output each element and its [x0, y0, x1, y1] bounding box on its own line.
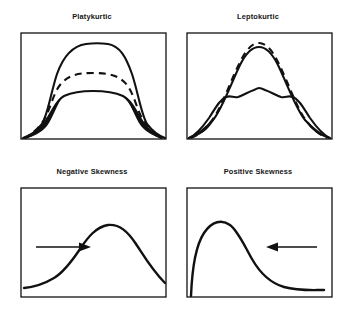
- panel-title-platykurtic: Platykurtic: [6, 12, 178, 22]
- plot-svg-negative-skew: [20, 187, 167, 298]
- plot-frame: [187, 188, 332, 297]
- plot-area-platykurtic: [20, 32, 167, 140]
- panel-title-negative-skew: Negative Skewness: [6, 167, 178, 177]
- plot-svg-positive-skew: [186, 187, 333, 298]
- plot-svg-platykurtic: [20, 32, 167, 140]
- plot-area-leptokurtic: [186, 32, 333, 140]
- panel-positive-skew: Positive Skewness: [172, 167, 344, 307]
- plot-frame: [21, 188, 166, 297]
- panel-leptokurtic: Leptokurtic: [172, 12, 344, 146]
- panel-negative-skew: Negative Skewness: [6, 167, 178, 307]
- plot-area-positive-skew: [186, 187, 333, 298]
- plot-area-negative-skew: [20, 187, 167, 298]
- panel-title-positive-skew: Positive Skewness: [172, 167, 344, 177]
- plot-svg-leptokurtic: [186, 32, 333, 140]
- panel-platykurtic: Platykurtic: [6, 12, 178, 146]
- kurtosis-and-skewness-figure: Platykurtic Leptokurtic: [0, 0, 350, 319]
- panel-title-leptokurtic: Leptokurtic: [172, 12, 344, 22]
